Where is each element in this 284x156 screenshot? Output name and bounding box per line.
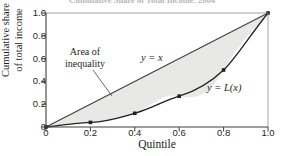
annotation-leader-line bbox=[93, 70, 112, 96]
plot-area bbox=[0, 0, 284, 156]
label-lorenz-curve: y = L(x) bbox=[207, 82, 242, 93]
data-point-marker bbox=[133, 112, 137, 116]
data-point-marker bbox=[177, 94, 181, 98]
lorenz-curve-figure: Cumulative Share of Total Income, 2004 C… bbox=[0, 0, 284, 156]
annotation-line-1: Area of bbox=[54, 46, 116, 58]
annotation-area-of-inequality: Area of inequality bbox=[54, 46, 116, 69]
data-point-marker bbox=[89, 121, 93, 125]
x-axis-ticks bbox=[46, 127, 268, 132]
data-point-marker bbox=[222, 68, 226, 72]
identity-line-y-equals-x bbox=[46, 13, 268, 127]
y-axis-ticks bbox=[42, 13, 47, 127]
label-identity-line: y = x bbox=[141, 52, 163, 63]
annotation-line-2: inequality bbox=[54, 58, 116, 70]
